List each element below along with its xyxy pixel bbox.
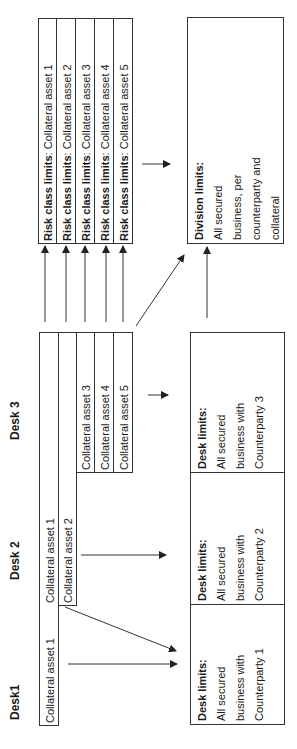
arrow-desk2-diagonal [65, 607, 176, 651]
arrow-assets-to-division [136, 255, 184, 326]
connector-arrows [0, 0, 297, 749]
